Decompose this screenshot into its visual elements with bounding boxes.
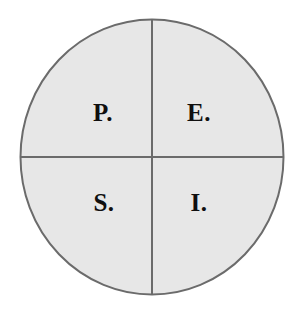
quadrant-label-bottom-right: I.	[191, 190, 208, 215]
quadrant-label-bottom-left: S.	[93, 190, 114, 215]
quadrant-label-top-left: P.	[93, 100, 113, 125]
quadrant-label-top-right: E.	[187, 100, 211, 125]
quadrant-circle-diagram: P. E. S. I.	[0, 0, 301, 312]
circle-graphic	[0, 0, 301, 312]
